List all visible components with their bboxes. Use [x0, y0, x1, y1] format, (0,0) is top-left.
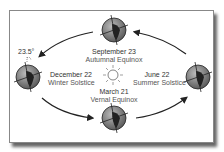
sun-icon [103, 65, 123, 85]
date-september: September 23 [84, 48, 144, 56]
label-june: June 22 Summer Solstice [133, 71, 181, 87]
tilt-label: 23.5° [18, 48, 34, 56]
orbit-arrow-dec-mar [42, 98, 92, 118]
event-december: Winter Solstice [48, 79, 94, 87]
label-december: December 22 Winter Solstice [48, 71, 94, 87]
date-june: June 22 [133, 71, 181, 79]
earth-december-icon [14, 62, 42, 92]
earth-march-icon [100, 103, 128, 133]
earth-june-icon [184, 62, 212, 92]
label-march: March 21 Vernal Equinox [90, 88, 138, 104]
event-march: Vernal Equinox [90, 96, 138, 104]
tilt-angle-icon [27, 56, 31, 62]
date-december: December 22 [48, 71, 94, 79]
orbit-arrow-mar-jun [136, 98, 186, 118]
orbit-diagram [0, 0, 224, 152]
event-june: Summer Solstice [133, 79, 181, 87]
label-september: September 23 Autumnal Equinox [84, 48, 144, 64]
date-march: March 21 [90, 88, 138, 96]
earth-september-icon [100, 15, 128, 45]
event-september: Autumnal Equinox [84, 56, 144, 64]
